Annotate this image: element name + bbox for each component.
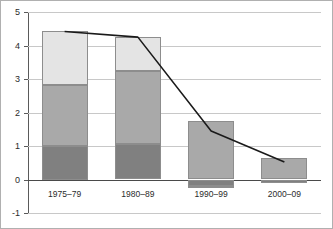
x-axis-tick-label: 2000–09 [244,190,324,199]
chart-container: 543210-1 1975–791980–891990–992000–09 [0,0,333,229]
bar-segment [42,31,88,85]
bar-segment [42,146,88,180]
y-axis-tick-label: 4 [0,42,20,51]
bar-segment [115,37,161,71]
y-axis-tick-label: -1 [0,209,20,218]
y-axis-tick-label: 5 [0,8,20,17]
x-axis-tick-label: 1975–79 [25,190,105,199]
gridline-5 [28,12,321,13]
x-axis-tick-label: 1990–99 [171,190,251,199]
plot-area [28,12,321,213]
bar-segment [188,186,234,188]
bar-segment [115,71,161,144]
bar-segment [188,121,234,180]
bar-segment [115,144,161,180]
gridline--1 [28,213,321,214]
y-axis-tick-label: 0 [0,176,20,185]
bar-segment [261,180,307,183]
x-axis-tick-label: 1980–89 [98,190,178,199]
bar-segment [261,158,307,180]
y-axis-tick-label: 1 [0,142,20,151]
y-axis-tick-label: 2 [0,109,20,118]
bar-segment [188,180,234,187]
y-axis-tick-label: 3 [0,75,20,84]
bar-segment [42,85,88,146]
